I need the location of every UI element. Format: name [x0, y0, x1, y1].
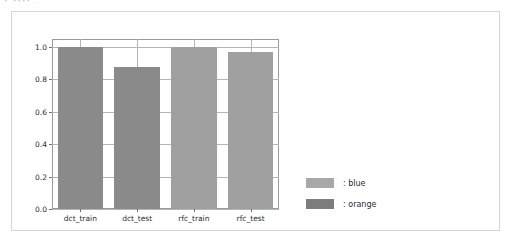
gridline-horizontal	[52, 209, 279, 210]
legend-item-1: : orange	[306, 196, 376, 212]
y-tick-label: 1.0	[35, 43, 47, 52]
x-tick-label-rfc_train: rfc_train	[178, 214, 209, 223]
y-tick-mark	[49, 144, 52, 145]
y-tick-mark	[49, 177, 52, 178]
chart-legend: : blue: orange	[306, 175, 376, 217]
bar-dct_test	[114, 67, 159, 209]
legend-item-0: : blue	[306, 175, 376, 191]
x-tick-label-dct_train: dct_train	[64, 214, 97, 223]
x-tick-label-rfc_test: rfc_test	[237, 214, 265, 223]
plot-area: 0.00.20.40.60.81.0 dct_traindct_testrfc_…	[52, 39, 279, 209]
x-tick-mark	[80, 209, 81, 212]
bar-rfc_test	[228, 52, 273, 209]
legend-label-0: : blue	[343, 179, 366, 188]
x-tick-mark	[194, 209, 195, 212]
legend-swatch-0	[306, 178, 334, 188]
y-tick-label: 0.2	[35, 172, 47, 181]
y-tick-mark	[49, 112, 52, 113]
y-tick-label: 0.6	[35, 107, 47, 116]
y-tick-mark	[49, 47, 52, 48]
legend-label-1: : orange	[343, 200, 376, 209]
y-tick-label: 0.0	[35, 205, 47, 214]
chart-card: 0.00.20.40.60.81.0 dct_traindct_testrfc_…	[11, 11, 500, 231]
bar-rfc_train	[171, 47, 216, 209]
legend-swatch-1	[306, 199, 334, 209]
clipped-top-text: · ···· ,	[4, 0, 40, 3]
bar-dct_train	[58, 47, 103, 209]
x-tick-mark	[137, 209, 138, 212]
y-tick-label: 0.8	[35, 75, 47, 84]
y-tick-label: 0.4	[35, 140, 47, 149]
x-tick-label-dct_test: dct_test	[122, 214, 152, 223]
x-tick-mark	[251, 209, 252, 212]
y-tick-mark	[49, 209, 52, 210]
y-tick-mark	[49, 79, 52, 80]
